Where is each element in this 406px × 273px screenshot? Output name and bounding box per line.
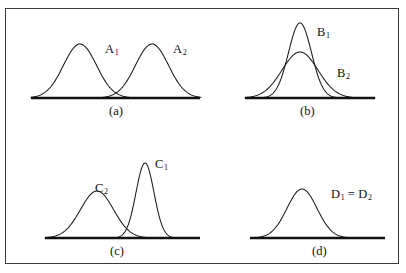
curve-label-a1: A1 xyxy=(105,42,118,57)
distribution-curve-c1 xyxy=(112,163,180,238)
distribution-curve-c2 xyxy=(45,191,155,238)
curve-label-a1-sub: 1 xyxy=(115,48,119,57)
curve-label-c1: C1 xyxy=(155,157,168,172)
panel-caption-d: (d) xyxy=(312,244,327,259)
curve-label-d2-sub: 2 xyxy=(368,193,372,202)
curve-label-b2: B2 xyxy=(337,66,350,81)
curves-canvas xyxy=(0,0,406,273)
curve-label-b2-base: B xyxy=(337,66,346,80)
panel-caption-b: (b) xyxy=(300,104,315,119)
curve-label-c1-sub: 1 xyxy=(164,163,168,172)
curve-label-b1: B1 xyxy=(317,25,330,40)
curve-label-a2-base: A xyxy=(173,42,182,56)
curve-label-a2-sub: 2 xyxy=(183,48,187,57)
curve-label-c1-base: C xyxy=(155,157,164,171)
curve-label-d1-sub: 1 xyxy=(341,193,345,202)
panel-caption-a: (a) xyxy=(109,104,123,119)
panel-caption-c: (c) xyxy=(110,244,124,259)
curve-label-b1-base: B xyxy=(317,25,326,39)
curve-label-d2-base: D xyxy=(358,187,367,201)
curve-label-b2-sub: 2 xyxy=(346,72,350,81)
curve-label-a2: A2 xyxy=(173,42,186,57)
curve-label-c2-sub: 2 xyxy=(104,187,108,196)
curve-label-c2: C2 xyxy=(95,181,108,196)
figure-root: A1 A2 (a) B1 B2 (b) C2 C1 (c) D1 = D2 (d… xyxy=(0,0,406,273)
curve-label-b1-sub: 1 xyxy=(326,31,330,40)
curve-label-a1-base: A xyxy=(105,42,114,56)
curve-label-d1-base: D xyxy=(331,187,340,201)
curve-label-equals: = xyxy=(344,187,358,201)
distribution-curve-b2 xyxy=(245,52,375,98)
curve-label-c2-base: C xyxy=(95,181,104,195)
curve-label-d1-equals-d2: D1 = D2 xyxy=(331,187,372,202)
